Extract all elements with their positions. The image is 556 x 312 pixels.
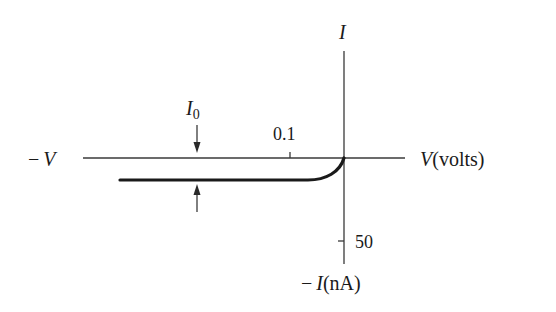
y-axis-negative-label: −I(nA) — [301, 272, 361, 295]
y-tick-label: 50 — [355, 232, 373, 252]
x-tick-label: 0.1 — [273, 124, 296, 144]
down-arrow-icon — [194, 125, 201, 153]
up-arrow-icon — [194, 184, 201, 212]
iv-curve-diagram: I −V V(volts) −I(nA) 0.1 50 I0 — [0, 0, 556, 312]
y-axis-positive-label: I — [338, 21, 347, 43]
saturation-current-label: I0 — [185, 97, 200, 122]
x-axis-positive-label: V(volts) — [420, 148, 484, 171]
iv-curve — [120, 158, 344, 180]
x-axis-negative-label: −V — [28, 148, 58, 170]
